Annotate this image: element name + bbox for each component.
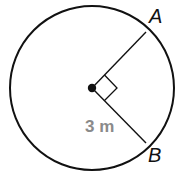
right-angle-marker (105, 75, 118, 101)
point-b-label: B (148, 145, 161, 165)
radius-measure-label: 3 m (85, 118, 114, 135)
center-point (88, 84, 96, 92)
point-a-label: A (149, 6, 162, 26)
radius-to-a (92, 32, 146, 88)
circle-diagram: A B 3 m (0, 0, 180, 177)
